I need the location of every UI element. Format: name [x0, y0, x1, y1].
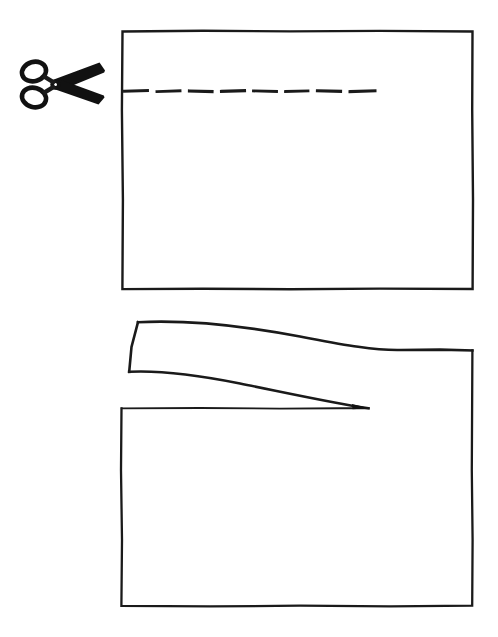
sheet-cut-edge — [122, 408, 369, 409]
instructional-line-drawing — [0, 0, 498, 637]
